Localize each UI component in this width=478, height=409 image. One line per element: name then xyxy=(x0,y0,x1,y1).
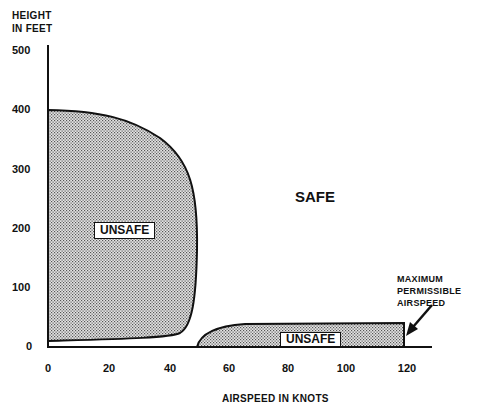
x-tick-80: 80 xyxy=(282,362,294,374)
y-tick-0: 0 xyxy=(26,340,32,352)
y-tick-500: 500 xyxy=(12,44,30,56)
y-tick-100: 100 xyxy=(12,281,30,293)
safe-label: SAFE xyxy=(295,188,335,205)
x-tick-120: 120 xyxy=(398,362,416,374)
x-tick-100: 100 xyxy=(337,362,355,374)
y-axis-title-line1: HEIGHT xyxy=(12,10,52,21)
x-axis-title: AIRSPEED IN KNOTS xyxy=(222,393,329,404)
annotation-line3: AIRSPEED xyxy=(397,298,445,308)
x-tick-20: 20 xyxy=(103,362,115,374)
x-tick-40: 40 xyxy=(164,362,176,374)
y-tick-400: 400 xyxy=(12,103,30,115)
x-tick-0: 0 xyxy=(45,362,51,374)
annotation-line2: PERMISSIBLE xyxy=(397,286,461,296)
x-tick-60: 60 xyxy=(223,362,235,374)
chart-canvas xyxy=(0,0,478,409)
y-tick-200: 200 xyxy=(12,222,30,234)
y-tick-300: 300 xyxy=(12,163,30,175)
annotation-line1: MAXIMUM xyxy=(397,274,443,284)
y-axis-title-line2: IN FEET xyxy=(12,23,52,34)
unsafe-label-lower: UNSAFE xyxy=(280,332,341,347)
unsafe-label-upper: UNSAFE xyxy=(94,222,155,239)
arrow-icon xyxy=(406,305,432,336)
